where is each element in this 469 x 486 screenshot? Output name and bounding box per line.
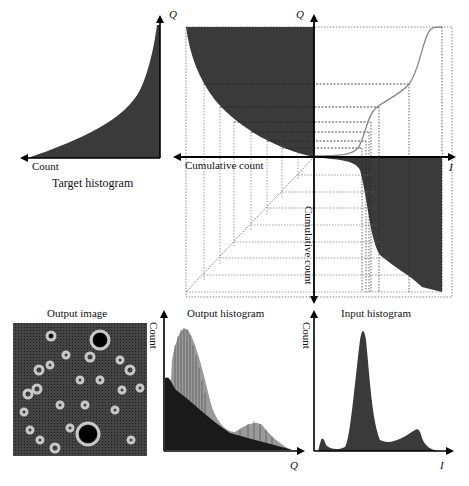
- i-axis-label: I: [449, 162, 453, 173]
- target-histogram: [22, 17, 160, 158]
- cumulative-input-fill: [314, 157, 442, 292]
- output-histogram: [164, 312, 303, 451]
- input-histogram: [314, 312, 452, 451]
- output-image-title: Output image: [47, 308, 107, 319]
- input-histogram-title: Input histogram: [341, 308, 411, 319]
- transfer-function-curve: [314, 27, 442, 156]
- input-histogram-fill: [318, 331, 440, 451]
- histogram-matching-diagram: [0, 0, 469, 486]
- output-image: [13, 323, 147, 456]
- cumulative-count-left-label: Cumulative count: [185, 160, 264, 171]
- target-histogram-fill: [28, 25, 160, 158]
- input-i-label: I: [440, 460, 444, 471]
- input-count-label: Count: [301, 322, 312, 349]
- output-q-label: Q: [290, 460, 298, 471]
- output-count-label: Count: [148, 322, 159, 349]
- target-histogram-title: Target histogram: [52, 177, 133, 189]
- q-axis-label: Q: [296, 9, 304, 20]
- cumulative-count-down-label: Cumulative count: [303, 206, 314, 285]
- cumulative-target-fill: [186, 27, 314, 157]
- output-histogram-title: Output histogram: [187, 308, 264, 319]
- target-count-label: Count: [32, 161, 59, 172]
- target-q-label: Q: [169, 9, 177, 20]
